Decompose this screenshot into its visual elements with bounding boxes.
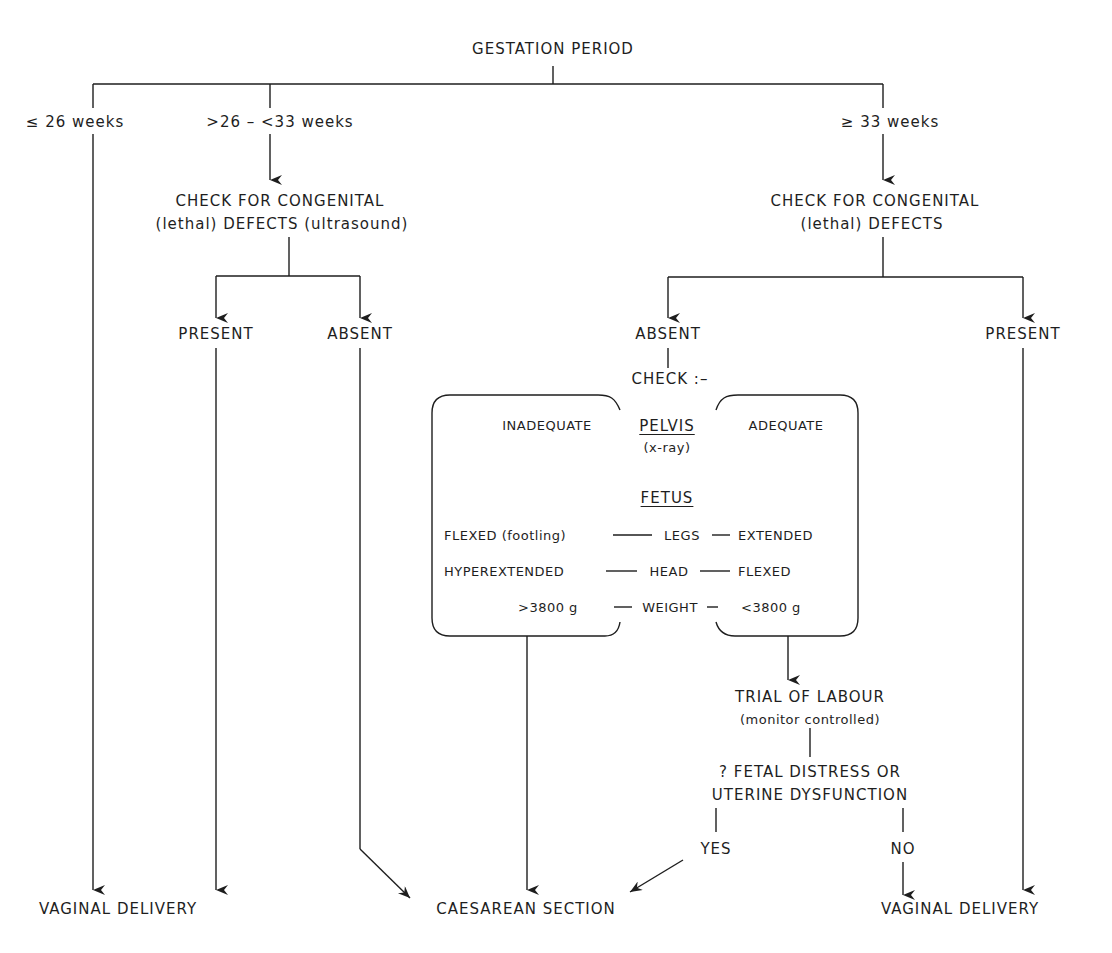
pelvis-inadequate-label: INADEQUATE — [502, 417, 591, 435]
answer-yes: YES — [700, 840, 731, 858]
check-defects-ultrasound-line1: CHECK FOR CONGENITAL — [176, 192, 385, 210]
pelvis-xray-note: (x-ray) — [643, 439, 690, 457]
endpoint-vaginal-delivery-right: VAGINAL DELIVERY — [881, 900, 1039, 918]
check-defects-line1: CHECK FOR CONGENITAL — [771, 192, 980, 210]
branch-label-ge-33-weeks: ≥ 33 weeks — [841, 113, 939, 131]
head-left-value: HYPEREXTENDED — [444, 563, 564, 581]
check-defects-ultrasound-line2: (lethal) DEFECTS (ultrasound) — [156, 215, 409, 233]
mid-absent-node: ABSENT — [327, 325, 393, 343]
pelvis-adequate-label: ADEQUATE — [749, 417, 824, 435]
answer-no: NO — [890, 840, 915, 858]
legs-left-value: FLEXED (footling) — [444, 527, 566, 545]
flowchart-connectors — [0, 0, 1112, 953]
endpoint-caesarean-section: CAESAREAN SECTION — [436, 900, 616, 918]
weight-left-value: >3800 g — [518, 599, 578, 617]
branch-label-le-26-weeks: ≤ 26 weeks — [26, 113, 124, 131]
fetus-heading: FETUS — [641, 489, 694, 507]
right-present-node: PRESENT — [985, 325, 1060, 343]
trial-of-labour-line1: TRIAL OF LABOUR — [735, 688, 885, 706]
legs-criterion: LEGS — [664, 527, 700, 545]
weight-right-value: <3800 g — [741, 599, 801, 617]
check-label: CHECK :– — [632, 370, 709, 388]
legs-right-value: EXTENDED — [738, 527, 813, 545]
trial-of-labour-line2: (monitor controlled) — [740, 711, 880, 729]
distress-question-line2: UTERINE DYSFUNCTION — [712, 786, 908, 804]
weight-criterion: WEIGHT — [642, 599, 698, 617]
root-node-gestation-period: GESTATION PERIOD — [472, 40, 634, 58]
endpoint-vaginal-delivery-left: VAGINAL DELIVERY — [39, 900, 197, 918]
head-criterion: HEAD — [650, 563, 689, 581]
head-right-value: FLEXED — [738, 563, 791, 581]
check-defects-line2: (lethal) DEFECTS — [801, 215, 944, 233]
mid-present-node: PRESENT — [178, 325, 253, 343]
right-absent-node: ABSENT — [635, 325, 701, 343]
pelvis-heading: PELVIS — [639, 417, 694, 435]
distress-question-line1: ? FETAL DISTRESS OR — [719, 763, 901, 781]
branch-label-26-33-weeks: >26 – <33 weeks — [206, 113, 353, 131]
